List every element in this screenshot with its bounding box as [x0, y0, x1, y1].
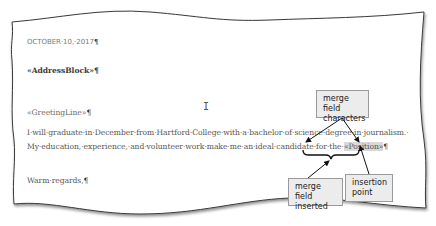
callout-line: insertion [352, 178, 386, 188]
callout-line: merge field [295, 182, 336, 202]
callout-line: characters [323, 114, 362, 124]
callout-line: inserted [295, 202, 336, 212]
callout-line: merge field [323, 94, 362, 114]
callout-merge-field-inserted: merge field inserted [288, 178, 343, 206]
callout-insertion-point: insertion point [345, 174, 393, 202]
callout-merge-field-characters: merge field characters [316, 90, 369, 118]
callout-line: point [352, 188, 386, 198]
